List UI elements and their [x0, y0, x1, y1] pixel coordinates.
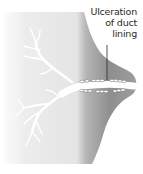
label-line-3: lining — [75, 28, 137, 39]
label-line-1: Ulceration — [75, 6, 137, 17]
label-line-2: of duct — [75, 17, 137, 28]
ulceration-label: Ulceration of duct lining — [75, 6, 137, 39]
